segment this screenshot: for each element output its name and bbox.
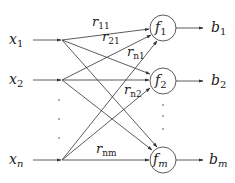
edge-label-rn2: rn2 (124, 83, 142, 101)
node-label-fm: fm (153, 152, 168, 171)
output-label-b2: b2 (211, 73, 226, 92)
node-label-f1: f1 (155, 20, 167, 39)
label-sub: n2 (130, 89, 142, 99)
label-sub: n (17, 158, 23, 169)
label-base: b (211, 19, 220, 35)
label-sub: 1 (220, 26, 226, 37)
network-diagram: x1 x2 xn f1 f2 fm b1 b2 bm r11 r21 rn1 r… (0, 0, 235, 183)
label-sub: 2 (17, 78, 23, 89)
label-sub: 1 (17, 38, 23, 49)
label-sub: 2 (160, 79, 166, 90)
label-base: b (209, 151, 218, 167)
label-base: x (9, 151, 17, 167)
label-sub: 21 (108, 36, 119, 46)
input-label-xn: xn (9, 152, 23, 171)
input-label-x1: x1 (9, 32, 23, 51)
ellipsis-dots (58, 99, 164, 139)
output-label-b1: b1 (211, 20, 226, 39)
edge-label-rnm: rnm (96, 142, 117, 160)
label-sub: m (218, 158, 227, 169)
input-label-x2: x2 (9, 72, 23, 91)
edge-label-r21: r21 (102, 30, 120, 48)
label-base: b (211, 72, 220, 88)
output-label-bm: bm (209, 152, 227, 171)
diagram-edges (0, 0, 235, 183)
label-sub: 1 (160, 26, 166, 37)
label-sub: n1 (133, 51, 145, 61)
label-base: x (9, 71, 17, 87)
node-label-f2: f2 (155, 73, 167, 92)
label-sub: m (158, 158, 167, 169)
label-sub: 2 (220, 79, 226, 90)
label-sub: nm (102, 148, 116, 158)
label-base: x (9, 31, 17, 47)
edge-label-rn1: rn1 (127, 45, 145, 63)
